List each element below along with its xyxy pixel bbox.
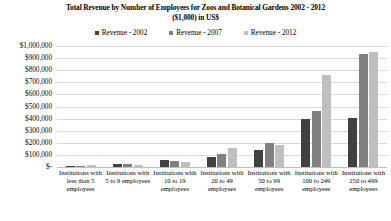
bar bbox=[181, 162, 190, 167]
y-axis-tick-label: $1,000,000 bbox=[0, 42, 52, 50]
bar bbox=[170, 161, 179, 167]
bar-group bbox=[340, 46, 387, 167]
bar bbox=[359, 54, 368, 167]
legend-swatch-revenue-2002 bbox=[95, 31, 99, 35]
bar-group bbox=[293, 46, 340, 167]
chart-legend: Revenue - 2002 Revenue - 2007 Revenue - … bbox=[0, 29, 391, 37]
chart-title: Total Revenue by Number of Employees for… bbox=[0, 3, 391, 22]
bar-group bbox=[104, 46, 151, 167]
x-axis-category-label: Institutions with 20 to 49 employees bbox=[198, 169, 245, 219]
bar-group bbox=[246, 46, 293, 167]
y-axis-tick-label: $100,000 bbox=[0, 151, 52, 159]
bar-group bbox=[198, 46, 245, 167]
bar bbox=[123, 164, 132, 167]
y-axis-tick-label: $600,000 bbox=[0, 90, 52, 98]
x-axis-category-label: Institutions with 5 to 9 employees bbox=[104, 169, 151, 219]
bar bbox=[301, 119, 310, 167]
y-axis-tick-label: $400,000 bbox=[0, 114, 52, 122]
bar bbox=[369, 52, 378, 167]
x-axis-category-label: Institutions with 100 to 249 employees bbox=[293, 169, 340, 219]
bar bbox=[322, 75, 331, 167]
legend-label-revenue-2002: Revenue - 2002 bbox=[102, 29, 148, 37]
y-axis-tick-label: $200,000 bbox=[0, 138, 52, 146]
bar bbox=[217, 154, 226, 167]
bar bbox=[113, 164, 122, 167]
legend-item-revenue-2007: Revenue - 2007 bbox=[169, 29, 222, 37]
legend-item-revenue-2012: Revenue - 2012 bbox=[244, 29, 297, 37]
y-axis-tick-label: $800,000 bbox=[0, 66, 52, 74]
legend-label-revenue-2007: Revenue - 2007 bbox=[176, 29, 222, 37]
bar bbox=[312, 111, 321, 167]
bar bbox=[228, 148, 237, 167]
bar bbox=[160, 160, 169, 167]
y-axis-tick-label: $500,000 bbox=[0, 102, 52, 110]
bar bbox=[254, 150, 263, 167]
legend-item-revenue-2002: Revenue - 2002 bbox=[95, 29, 148, 37]
bar bbox=[348, 118, 357, 167]
legend-swatch-revenue-2007 bbox=[169, 31, 173, 35]
chart-title-line-1: Total Revenue by Number of Employees for… bbox=[66, 3, 325, 12]
bar bbox=[275, 145, 284, 167]
bar-groups bbox=[57, 46, 387, 167]
y-axis-tick-label: $700,000 bbox=[0, 78, 52, 86]
bar bbox=[76, 166, 85, 167]
bar bbox=[87, 165, 96, 167]
y-axis-tick-label: $900,000 bbox=[0, 54, 52, 62]
x-axis-category-label: Institutions with 10 to 19 employees bbox=[151, 169, 198, 219]
revenue-bar-chart: Total Revenue by Number of Employees for… bbox=[0, 0, 391, 221]
legend-swatch-revenue-2012 bbox=[244, 31, 248, 35]
chart-title-line-2: ($1,000) in US$ bbox=[0, 13, 391, 23]
legend-label-revenue-2012: Revenue - 2012 bbox=[251, 29, 297, 37]
x-axis: Institutions with less than 5 employeesI… bbox=[57, 169, 387, 219]
bar-group bbox=[151, 46, 198, 167]
plot-area bbox=[57, 46, 387, 167]
x-axis-category-label: Institutions with 50 to 99 employees bbox=[246, 169, 293, 219]
bar bbox=[265, 143, 274, 167]
x-axis-category-label: Institutions with less than 5 employees bbox=[57, 169, 104, 219]
gridline bbox=[57, 167, 387, 168]
bar-group bbox=[57, 46, 104, 167]
bar bbox=[207, 157, 216, 167]
bar bbox=[134, 165, 143, 167]
y-axis-tick-label: $- bbox=[0, 163, 52, 171]
bar bbox=[66, 166, 75, 167]
y-axis-tick-label: $300,000 bbox=[0, 126, 52, 134]
y-axis: $1,000,000$900,000$800,000$700,000$600,0… bbox=[0, 46, 52, 167]
x-axis-category-label: Institutions with 250 to 499 employees bbox=[340, 169, 387, 219]
